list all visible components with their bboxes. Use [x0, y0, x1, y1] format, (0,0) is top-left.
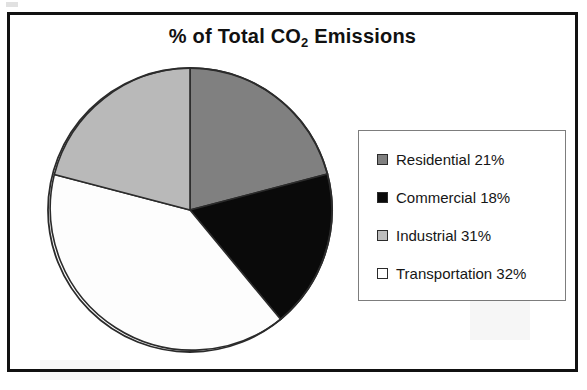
chart-title-prefix: % of Total CO — [169, 25, 301, 47]
page-title: % of Total CO2 Emissions — [10, 25, 575, 48]
legend-item-residential[interactable]: Residential 21% — [377, 140, 565, 178]
pie-chart — [42, 62, 338, 358]
chart-frame: % of Total CO2 Emissions Residential 21% — [7, 12, 578, 372]
legend-item-transportation[interactable]: Transportation 32% — [377, 254, 565, 292]
legend-item-commercial[interactable]: Commercial 18% — [377, 178, 565, 216]
chart-title-subscript: 2 — [301, 35, 308, 50]
legend-swatch-commercial — [377, 192, 388, 203]
legend-item-industrial[interactable]: Industrial 31% — [377, 216, 565, 254]
legend-swatch-industrial — [377, 230, 388, 241]
scan-artifact — [6, 2, 18, 7]
legend-label-residential: Residential 21% — [396, 151, 504, 168]
legend-label-industrial: Industrial 31% — [396, 227, 491, 244]
legend-swatch-residential — [377, 154, 388, 165]
legend: Residential 21% Commercial 18% Industria… — [358, 130, 566, 301]
chart-title-suffix: Emissions — [309, 25, 417, 47]
legend-swatch-transportation — [377, 268, 388, 279]
legend-label-transportation: Transportation 32% — [396, 265, 526, 282]
legend-label-commercial: Commercial 18% — [396, 189, 510, 206]
pie-chart-svg — [42, 62, 338, 358]
